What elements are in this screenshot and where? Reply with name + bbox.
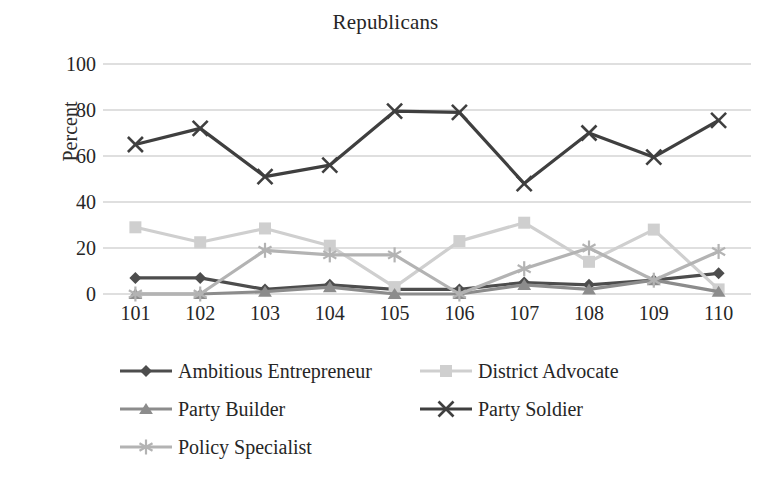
data-point-diamond xyxy=(129,272,141,284)
legend-item-policy-specialist[interactable]: Policy Specialist xyxy=(118,428,418,466)
x-tick-label: 108 xyxy=(559,302,619,325)
legend-item-party-soldier[interactable]: Party Soldier xyxy=(418,390,718,428)
data-point-cross xyxy=(517,176,532,191)
series-party-builder xyxy=(129,274,726,299)
x-tick-label: 102 xyxy=(170,302,230,325)
data-point-diamond xyxy=(140,365,152,377)
x-tick-label: 107 xyxy=(494,302,554,325)
gridlines xyxy=(103,64,751,294)
data-point-cross xyxy=(646,150,661,165)
chart-legend: Ambitious EntrepreneurDistrict AdvocateP… xyxy=(118,352,758,466)
data-point-cross xyxy=(711,113,726,128)
data-point-cross xyxy=(582,126,597,141)
data-point-square xyxy=(583,256,595,268)
legend-swatch-cross-icon xyxy=(418,398,474,420)
x-tick-label: 110 xyxy=(689,302,749,325)
x-tick-label: 101 xyxy=(105,302,165,325)
data-point-diamond xyxy=(713,267,725,279)
series-layer xyxy=(128,104,726,302)
x-tick-label: 106 xyxy=(429,302,489,325)
data-point-asterisk xyxy=(712,244,725,259)
data-point-square xyxy=(453,235,465,247)
chart-container: Republicans Percent 100806040200 1011021… xyxy=(0,0,771,478)
legend-label: District Advocate xyxy=(478,360,619,383)
legend-swatch-triangle-icon xyxy=(118,398,174,420)
data-point-square xyxy=(194,236,206,248)
legend-swatch-asterisk-icon xyxy=(118,436,174,458)
legend-swatch-diamond-icon xyxy=(118,360,174,382)
series-party-soldier xyxy=(128,104,726,191)
data-point-square xyxy=(259,222,271,234)
x-tick-label: 103 xyxy=(235,302,295,325)
legend-item-district-advocate[interactable]: District Advocate xyxy=(418,352,718,390)
data-point-square xyxy=(648,224,660,236)
x-tick-label: 104 xyxy=(300,302,360,325)
data-point-square xyxy=(518,217,530,229)
legend-label: Party Soldier xyxy=(478,398,583,421)
legend-label: Ambitious Entrepreneur xyxy=(178,360,372,383)
legend-swatch-square-icon xyxy=(418,360,474,382)
data-point-square xyxy=(129,221,141,233)
data-point-diamond xyxy=(194,272,206,284)
legend-label: Policy Specialist xyxy=(178,436,312,459)
legend-label: Party Builder xyxy=(178,398,285,421)
x-tick-label: 109 xyxy=(624,302,684,325)
data-point-square xyxy=(440,365,452,377)
x-tick-label: 105 xyxy=(365,302,425,325)
legend-item-party-builder[interactable]: Party Builder xyxy=(118,390,418,428)
legend-item-ambitious-entrepreneur[interactable]: Ambitious Entrepreneur xyxy=(118,352,418,390)
